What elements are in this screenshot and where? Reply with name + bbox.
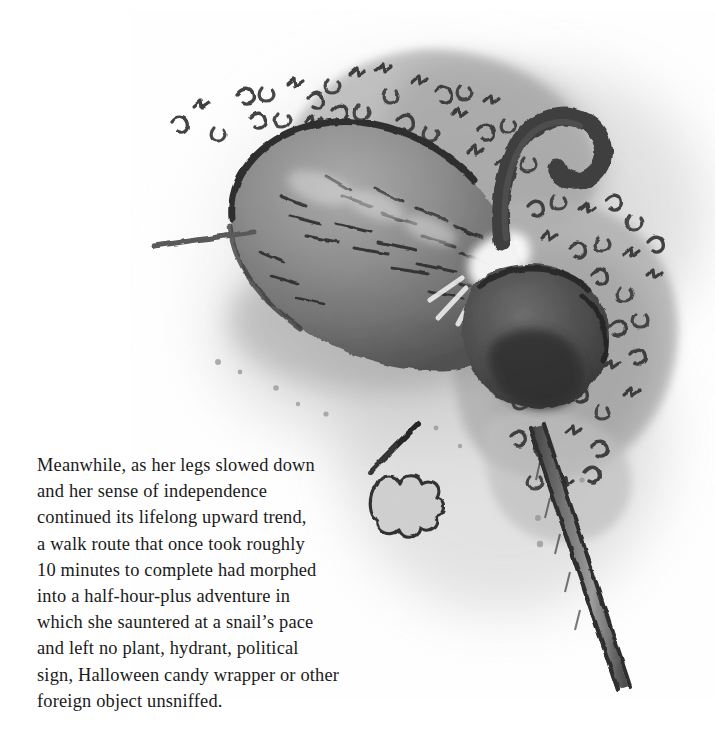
caption-line: Meanwhile, as her legs slowed down <box>37 452 377 478</box>
caption-line: a walk route that once took roughly <box>37 531 377 557</box>
caption-line: and her sense of independence <box>37 478 377 504</box>
caption-paragraph: Meanwhile, as her legs slowed down and h… <box>37 452 377 714</box>
caption-line: which she sauntered at a snail’s pace <box>37 609 377 635</box>
caption-line: continued its lifelong upward trend, <box>37 504 377 530</box>
caption-line: sign, Halloween candy wrapper or other <box>37 662 377 688</box>
caption-line: 10 minutes to complete had morphed <box>37 557 377 583</box>
caption-line: and left no plant, hydrant, political <box>37 635 377 661</box>
caption-line: into a half-hour-plus adventure in <box>37 583 377 609</box>
caption-line: foreign object unsniffed. <box>37 688 377 714</box>
caption-text-block: Meanwhile, as her legs slowed down and h… <box>37 452 377 714</box>
page-canvas: Meanwhile, as her legs slowed down and h… <box>0 0 715 747</box>
